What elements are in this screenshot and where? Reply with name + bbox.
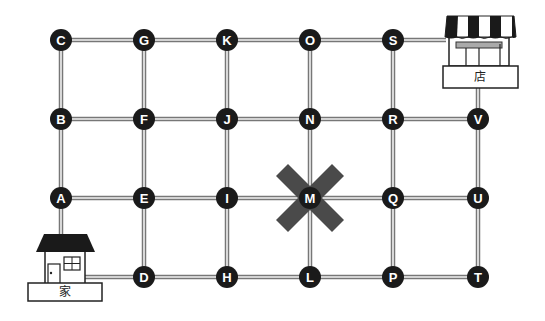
node-H: H bbox=[216, 266, 238, 288]
node-label: I bbox=[225, 191, 229, 206]
node-U: U bbox=[467, 187, 489, 209]
node-L: L bbox=[299, 266, 321, 288]
node-label: V bbox=[474, 112, 483, 127]
node-label: T bbox=[474, 270, 482, 285]
node-label: G bbox=[139, 33, 149, 48]
grid-edges bbox=[61, 40, 478, 277]
node-O: O bbox=[299, 29, 321, 51]
node-label: B bbox=[56, 112, 65, 127]
node-F: F bbox=[133, 108, 155, 130]
grid-nodes: CGKOSBFJNRVAEIMQUDHLPT bbox=[50, 29, 489, 288]
home-door bbox=[48, 264, 60, 284]
node-C: C bbox=[50, 29, 72, 51]
node-P: P bbox=[382, 266, 404, 288]
node-E: E bbox=[133, 187, 155, 209]
node-label: R bbox=[388, 112, 398, 127]
node-B: B bbox=[50, 108, 72, 130]
home-icon: 家 bbox=[28, 234, 102, 301]
node-label: E bbox=[140, 191, 149, 206]
store-awning bbox=[445, 16, 516, 39]
node-M: M bbox=[299, 187, 321, 209]
node-label: O bbox=[305, 33, 315, 48]
node-label: S bbox=[389, 33, 398, 48]
node-label: P bbox=[389, 270, 398, 285]
node-label: H bbox=[222, 270, 231, 285]
node-Q: Q bbox=[382, 187, 404, 209]
node-label: L bbox=[306, 270, 314, 285]
node-I: I bbox=[216, 187, 238, 209]
node-S: S bbox=[382, 29, 404, 51]
home-label: 家 bbox=[59, 284, 71, 299]
node-label: A bbox=[56, 191, 66, 206]
node-label: K bbox=[222, 33, 232, 48]
node-label: M bbox=[305, 191, 316, 206]
node-A: A bbox=[50, 187, 72, 209]
node-label: C bbox=[56, 33, 66, 48]
node-label: N bbox=[305, 112, 314, 127]
node-label: U bbox=[473, 191, 482, 206]
store-icon: 店 bbox=[443, 16, 518, 88]
store-label: 店 bbox=[474, 70, 486, 84]
node-D: D bbox=[133, 266, 155, 288]
node-label: F bbox=[140, 112, 148, 127]
node-K: K bbox=[216, 29, 238, 51]
node-T: T bbox=[467, 266, 489, 288]
node-V: V bbox=[467, 108, 489, 130]
node-label: J bbox=[223, 112, 230, 127]
node-R: R bbox=[382, 108, 404, 130]
node-N: N bbox=[299, 108, 321, 130]
node-J: J bbox=[216, 108, 238, 130]
node-G: G bbox=[133, 29, 155, 51]
node-label: Q bbox=[388, 191, 398, 206]
node-label: D bbox=[139, 270, 148, 285]
route-diagram: 店 家 CGKOSBFJNRVAEIMQUDHLPT bbox=[0, 0, 545, 321]
